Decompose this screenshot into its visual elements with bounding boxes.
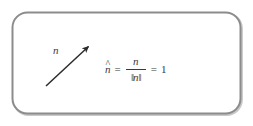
equation-equals-1: = [115,64,121,75]
equation-equals-2: = [151,64,157,75]
norm-close-bar: ‖ [138,71,140,83]
equation-unit-vector: ^ n [105,64,111,75]
hat-accent: ^ [105,59,110,69]
vector-label-n: n [53,45,59,56]
fraction-numerator: n [131,55,141,68]
equation-result: 1 [161,64,167,75]
fraction-bar [126,69,146,70]
figure-canvas: n ^ n = n ‖n‖ = 1 [0,0,253,126]
equation-fraction: n ‖n‖ [126,55,146,83]
unit-vector-equation: ^ n = n ‖n‖ = 1 [105,55,166,83]
fraction-denominator: ‖n‖ [129,71,143,84]
